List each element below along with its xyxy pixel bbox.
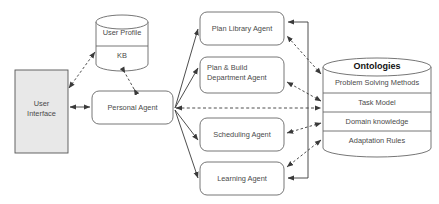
node-user-interface <box>15 70 68 153</box>
diagram-svg <box>0 0 439 204</box>
diagram-canvas: User Interface User Profile KB Personal … <box>0 0 439 204</box>
node-scheduling-agent <box>200 118 284 151</box>
edge-learning-plan-library <box>288 22 308 178</box>
node-personal-agent <box>92 91 173 124</box>
edge-personal-agent-learning <box>175 110 198 178</box>
node-plan-build-department-agent <box>200 57 284 93</box>
edge-personal-agent-plan-library <box>175 29 198 108</box>
edge-ontologies-scheduling <box>287 123 321 133</box>
edge-personal-agent-plan-build <box>175 68 198 108</box>
node-plan-library-agent <box>200 12 284 45</box>
edge-ontologies-learning <box>287 140 321 167</box>
node-learning-agent <box>200 162 284 195</box>
edge-ontologies-plan-library <box>287 36 321 74</box>
node-ontologies <box>323 58 431 157</box>
edge-ui-user-profile <box>69 52 95 88</box>
node-user-profile-kb <box>96 15 148 71</box>
edge-ontologies-plan-build <box>287 82 321 101</box>
edge-personal-agent-scheduling <box>175 110 198 140</box>
edge-personal-agent-kb <box>125 73 134 89</box>
